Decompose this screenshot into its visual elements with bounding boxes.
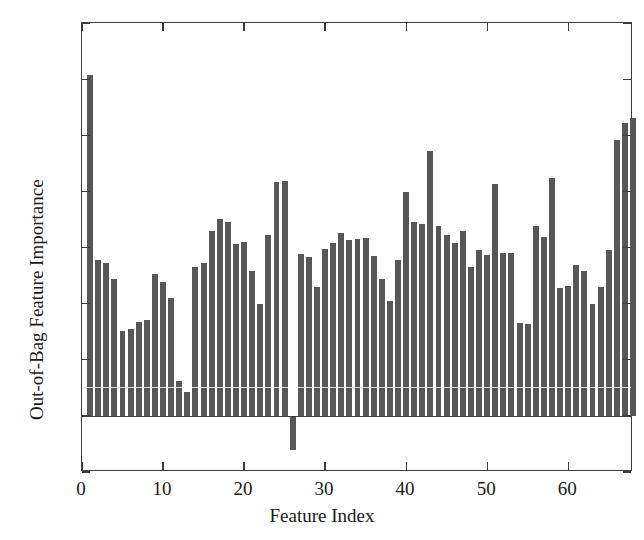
bar bbox=[507, 253, 515, 416]
bar bbox=[483, 255, 491, 416]
bar bbox=[224, 222, 232, 416]
x-tick-label: 40 bbox=[375, 478, 435, 500]
bar bbox=[491, 184, 499, 416]
y-tick-right bbox=[623, 359, 631, 360]
bar bbox=[175, 381, 183, 416]
x-tick-label: 30 bbox=[294, 478, 354, 500]
x-tick-top bbox=[568, 23, 569, 31]
x-tick-top bbox=[81, 23, 82, 31]
x-tick-label: 20 bbox=[213, 478, 273, 500]
bar bbox=[451, 243, 459, 416]
bar bbox=[394, 260, 402, 415]
bar bbox=[613, 140, 621, 416]
y-tick bbox=[82, 191, 90, 192]
y-tick-right bbox=[623, 191, 631, 192]
y-tick bbox=[82, 79, 90, 80]
y-tick bbox=[82, 135, 90, 136]
bar bbox=[605, 250, 613, 416]
bar bbox=[183, 392, 191, 416]
bar bbox=[378, 279, 386, 415]
x-tick-label: 10 bbox=[132, 478, 192, 500]
bar bbox=[337, 233, 345, 415]
y-tick-right bbox=[623, 471, 631, 472]
x-tick bbox=[162, 462, 163, 470]
bar bbox=[362, 238, 370, 416]
bar bbox=[589, 304, 597, 416]
bar bbox=[410, 222, 418, 416]
y-tick-right bbox=[623, 247, 631, 248]
bar bbox=[345, 240, 353, 416]
bar bbox=[402, 192, 410, 416]
bar bbox=[435, 226, 443, 416]
bar bbox=[232, 244, 240, 416]
bar bbox=[143, 320, 151, 416]
bar bbox=[167, 298, 175, 416]
y-tick-right bbox=[623, 79, 631, 80]
bar bbox=[499, 253, 507, 416]
x-tick-top bbox=[406, 23, 407, 31]
bar bbox=[418, 224, 426, 416]
bar bbox=[110, 279, 118, 415]
y-tick-right bbox=[623, 415, 631, 416]
bar bbox=[467, 267, 475, 416]
figure-canvas: -0.100.10.20.30.40.50.60.7 0102030405060… bbox=[0, 0, 644, 540]
y-tick-right bbox=[623, 303, 631, 304]
bar bbox=[329, 243, 337, 416]
bar bbox=[532, 226, 540, 416]
bar bbox=[305, 257, 313, 416]
bar bbox=[264, 235, 272, 416]
bar bbox=[191, 267, 199, 416]
bar bbox=[597, 287, 605, 416]
x-tick bbox=[324, 462, 325, 470]
bar bbox=[297, 254, 305, 416]
y-tick bbox=[82, 247, 90, 248]
bar bbox=[321, 249, 329, 416]
y-tick bbox=[82, 22, 90, 23]
x-axis-title: Feature Index bbox=[0, 505, 644, 527]
bar bbox=[248, 271, 256, 416]
bar bbox=[556, 288, 564, 415]
bar bbox=[216, 219, 224, 416]
x-tick-label: 60 bbox=[537, 478, 597, 500]
x-tick-label: 50 bbox=[456, 478, 516, 500]
x-tick-top bbox=[162, 23, 163, 31]
x-tick bbox=[568, 462, 569, 470]
bar bbox=[256, 304, 264, 416]
bar bbox=[475, 250, 483, 416]
bar bbox=[281, 181, 289, 416]
bar bbox=[564, 286, 572, 416]
bar bbox=[572, 265, 580, 415]
y-tick bbox=[82, 303, 90, 304]
x-tick-top bbox=[243, 23, 244, 31]
bar bbox=[119, 331, 127, 416]
x-tick bbox=[81, 462, 82, 470]
bar bbox=[548, 178, 556, 415]
x-tick bbox=[487, 462, 488, 470]
bar bbox=[208, 231, 216, 416]
bar bbox=[313, 287, 321, 416]
bar bbox=[240, 242, 248, 416]
bar bbox=[94, 260, 102, 416]
bar bbox=[426, 151, 434, 416]
bar bbox=[629, 118, 637, 415]
bar bbox=[580, 271, 588, 416]
x-tick-top bbox=[487, 23, 488, 31]
bar bbox=[524, 324, 532, 415]
y-tick bbox=[82, 415, 90, 416]
y-tick-right bbox=[623, 22, 631, 23]
bar bbox=[621, 123, 629, 415]
bar bbox=[135, 322, 143, 416]
bar bbox=[289, 416, 297, 450]
bar bbox=[127, 329, 135, 415]
y-axis-title: Out-of-Bag Feature Importance bbox=[26, 179, 48, 420]
bar bbox=[516, 323, 524, 416]
bar bbox=[370, 256, 378, 416]
bar bbox=[159, 282, 167, 416]
bar bbox=[354, 239, 362, 416]
x-tick bbox=[406, 462, 407, 470]
bar bbox=[273, 182, 281, 415]
bar bbox=[443, 235, 451, 416]
x-tick bbox=[243, 462, 244, 470]
y-tick bbox=[82, 359, 90, 360]
bar bbox=[102, 263, 110, 416]
